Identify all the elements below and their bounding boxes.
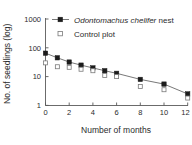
data-point [103,69,107,73]
x-tick-label-4: 4 [91,108,95,117]
data-point [79,63,83,67]
data-point [91,69,95,73]
data-point [103,73,107,77]
data-point [43,51,47,55]
x-tick-label-10: 10 [160,108,168,117]
y-tick-label-1: 1 [37,101,41,110]
data-point [162,88,166,92]
data-point [138,85,142,89]
y-tick-label-1000: 1000 [24,15,41,24]
chart-legend: Odontomachus chelifer nest Control plot [52,16,174,40]
y-tick-label-10: 10 [33,72,41,81]
legend-label-nest-italic: Odontomachus chelifer [74,16,157,25]
x-tick-label-0: 0 [43,108,47,117]
legend-marker-open-square [58,31,62,35]
data-point [55,56,59,60]
legend-label-nest-plain: nest [156,16,174,25]
x-tick-label-2: 2 [67,108,71,117]
data-point [55,65,59,69]
x-tick-label-8: 8 [138,108,142,117]
legend-label-nest: Odontomachus chelifer nest [74,16,174,25]
y-axis-title: No. of seedlings (log) [2,24,12,104]
legend-marker-filled-square [58,17,63,22]
x-tick-label-6: 6 [115,108,119,117]
data-point [186,92,190,96]
data-point [44,61,48,65]
plot-series-layer [43,51,190,100]
x-tick-label-12: 12 [181,108,189,117]
legend-label-control: Control plot [74,30,116,39]
seedlings-log-line-chart: No. of seedlings (log) 1000 100 10 1 0 2… [0,0,192,145]
data-point [67,60,71,64]
x-axis-title: Number of months [81,125,151,135]
chart-figure: No. of seedlings (log) 1000 100 10 1 0 2… [0,0,192,145]
series-nest [43,51,190,96]
data-point [138,77,142,81]
y-tick-label-100: 100 [28,44,41,53]
data-point [186,96,190,100]
data-point [115,75,119,79]
series-control [44,61,190,100]
data-point [79,67,83,71]
data-point [162,82,166,86]
data-point [67,65,71,69]
